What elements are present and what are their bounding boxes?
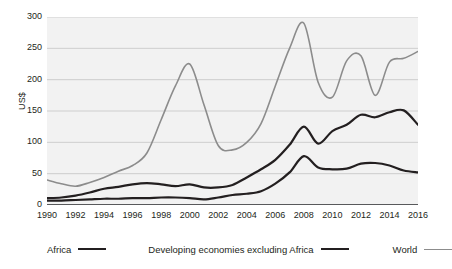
x-axis-line	[47, 204, 418, 205]
series-line-world	[47, 22, 418, 186]
x-axis-tick-labels: 1990199219941996199820002002200420062008…	[47, 209, 418, 223]
legend-item-africa: Africa	[47, 244, 106, 255]
y-tick-label: 200	[16, 75, 42, 84]
legend-item-developing-economies: Developing economies excluding Africa	[148, 244, 348, 255]
y-tick-label: 250	[16, 43, 42, 52]
y-tick-label: 100	[16, 137, 42, 146]
legend-label-world: World	[393, 244, 418, 255]
plot-area	[47, 17, 418, 205]
chart-lines	[47, 17, 418, 205]
chart-legend: Africa Developing economies excluding Af…	[0, 238, 436, 260]
y-tick-label: 150	[16, 106, 42, 115]
x-tick-label: 2016	[398, 209, 438, 221]
y-tick-label: 0	[16, 200, 42, 209]
legend-swatch-developing-economies	[321, 248, 349, 250]
legend-swatch-world	[424, 249, 452, 250]
y-tick-label: 50	[16, 169, 42, 178]
legend-label-developing-economies: Developing economies excluding Africa	[148, 244, 313, 255]
legend-label-africa: Africa	[47, 244, 71, 255]
y-axis-tick-labels: 050100150200250300	[14, 0, 42, 269]
series-line-developing-economies	[47, 110, 418, 198]
legend-swatch-africa	[78, 248, 106, 250]
legend-item-world: World	[393, 244, 452, 255]
y-tick-label: 300	[16, 12, 42, 21]
